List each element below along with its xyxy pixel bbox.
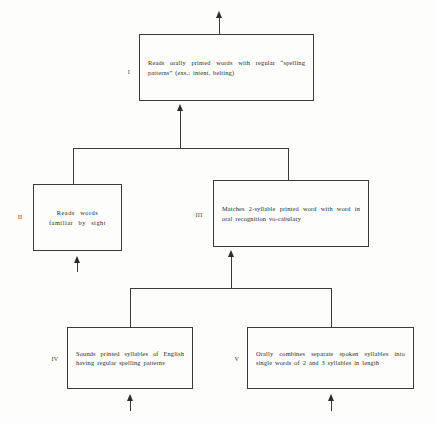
connector-below-box-5 [331, 400, 332, 411]
connector-bus-to-box-3-lower [231, 256, 232, 288]
numeral-label-2: II [12, 213, 28, 220]
arrowhead-above-box-1 [216, 11, 222, 18]
arrowhead-into-box-5 [328, 394, 334, 401]
node-box-5: Orally combines separate spoken syllable… [247, 327, 414, 389]
node-text-2: Reads words familiar by sight [34, 208, 121, 226]
connector-below-box-2 [77, 262, 78, 272]
node-box-3: Matches 2-syllable printed word with wor… [213, 180, 369, 247]
arrowhead-into-box-1 [177, 104, 183, 111]
connector-bus-to-box-1 [180, 110, 181, 148]
arrowhead-into-box-2 [74, 256, 80, 263]
node-text-4: Sounds printed syllables of English havi… [68, 349, 192, 367]
arrowhead-into-box-4 [127, 394, 133, 401]
numeral-label-3: III [190, 211, 208, 218]
connector-bus-to-box-5 [331, 288, 332, 327]
node-box-4: Sounds printed syllables of English havi… [67, 327, 193, 389]
arrowhead-into-box-3 [228, 250, 234, 257]
node-text-3: Matches 2-syllable printed word with wor… [214, 204, 368, 222]
connector-below-box-4 [130, 400, 131, 411]
node-box-2: Reads words familiar by sight [33, 184, 122, 251]
connector-bus-upper [73, 148, 288, 149]
connector-bus-to-box-4 [130, 288, 131, 327]
numeral-label-4: IV [46, 355, 64, 362]
node-text-1: Reads orally printed words with regular … [140, 58, 313, 76]
numeral-label-5: V [231, 355, 243, 362]
connector-bus-lower [130, 288, 331, 289]
node-box-1: Reads orally printed words with regular … [139, 34, 314, 101]
learning-hierarchy-diagram: I Reads orally printed words with regula… [0, 0, 436, 423]
connector-bus-to-box-3 [288, 148, 289, 180]
node-text-5: Orally combines separate spoken syllable… [248, 349, 413, 367]
connector-bus-to-box-2 [73, 148, 74, 184]
numeral-label-1: I [122, 68, 136, 75]
